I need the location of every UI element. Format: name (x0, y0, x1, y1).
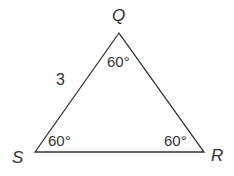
angle-label-q: 60° (107, 54, 130, 70)
angle-label-s: 60° (48, 133, 71, 149)
vertex-label-r: R (211, 148, 223, 164)
triangle-figure (0, 0, 234, 176)
vertex-label-q: Q (112, 8, 125, 24)
vertex-label-s: S (12, 150, 23, 166)
angle-label-r: 60° (164, 133, 187, 149)
side-label-qs: 3 (56, 72, 65, 88)
